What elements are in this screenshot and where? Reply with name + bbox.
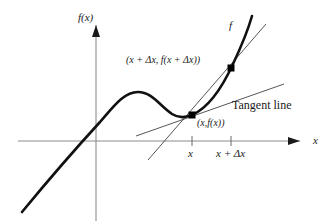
tangent-point-marker	[189, 112, 196, 119]
tangent-point-label: (x,f(x))	[197, 118, 224, 128]
y-axis-arrowhead	[92, 25, 100, 37]
y-axis-label: f(x)	[78, 12, 93, 23]
secant-point-label: (x + Δx, f(x + Δx))	[126, 55, 200, 65]
tick-label-x-plus-delta-x: x + Δx	[216, 148, 245, 159]
figure-derivative-diagram: f(x) x f (x + Δx, f(x + Δx)) (x,f(x)) Ta…	[0, 0, 329, 221]
x-axis-arrowhead	[288, 137, 300, 145]
tick-label-x: x	[188, 148, 193, 159]
tangent-line-caption: Tangent line	[232, 99, 291, 111]
secant-point-marker	[228, 65, 235, 72]
curve-label-f: f	[229, 20, 232, 31]
secant-line	[148, 24, 266, 160]
x-axis-label: x	[313, 135, 318, 146]
function-curve	[22, 16, 252, 212]
